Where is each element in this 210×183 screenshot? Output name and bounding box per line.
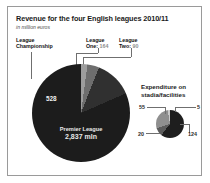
pie-label-premier-name: Premier League [60,126,103,132]
leader-line-sp-55-v [165,107,166,114]
chart-figure: Revenue for the four English leagues 201… [7,6,202,176]
right-chart-title: Expenditure on stadia/facilities [141,83,201,99]
leader-line-one-horizontal [76,53,98,54]
callout-league-championship: League Championship [16,37,53,49]
leader-line-sp-124 [180,124,189,125]
callout-championship-line2: Championship [16,43,53,49]
right-chart-title-line2: stadia/facilities [141,91,185,98]
right-chart-title-line1: Expenditure on [141,83,186,90]
leader-line-two-horizontal [83,57,131,58]
main-pie-chart [32,64,130,162]
pie-label-premier-value: 2,837 mln [65,133,97,140]
callout-league-two: League Two: 90 [119,37,138,49]
chart-title: Revenue for the four English leagues 201… [16,14,169,23]
leader-line-one-stub [98,48,99,53]
pie-label-championship: 528 [46,95,57,102]
small-pie-label-top-right: 5 [197,104,200,110]
callout-one-value: 164 [100,43,109,49]
leader-line-sp-5-v [175,107,176,112]
callout-two-line2: Two: 90 [119,43,138,49]
leader-line-championship [31,52,32,79]
callout-two-value: 90 [132,43,138,49]
callout-one-prefix: One: [86,43,98,49]
small-pie-label-bottom-left: 20 [138,131,144,137]
leader-line-sp-55 [147,107,165,108]
callout-two-prefix: Two: [119,43,131,49]
small-pie-label-top-left: 55 [139,104,145,110]
chart-subtitle: in million euros [16,24,50,30]
small-pie-label-bottom-right: 124 [188,131,197,137]
leader-line-two-stub [131,48,132,57]
leader-line-sp-5 [175,107,196,108]
leader-line-sp-20 [146,133,160,134]
pie-label-premier-league: Premier League 2,837 mln [32,125,130,141]
